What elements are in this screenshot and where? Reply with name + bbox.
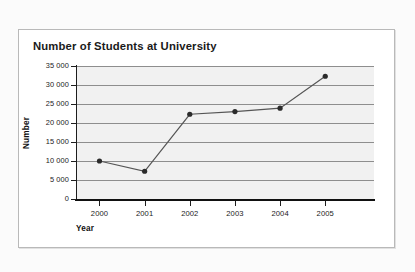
y-axis-label-text: 30 000 <box>46 80 69 89</box>
x-axis-tick <box>145 201 146 206</box>
y-axis-label: 30 000 <box>19 80 69 90</box>
x-axis-tick <box>280 201 281 206</box>
x-axis-label: 2004 <box>271 209 288 218</box>
y-axis-tick <box>71 199 76 200</box>
y-axis-label-text: 20 000 <box>46 118 69 127</box>
data-point-2002 <box>187 112 192 117</box>
y-axis-label-text: 5 000 <box>50 175 69 184</box>
data-point-2004 <box>277 106 282 111</box>
data-point-2001 <box>142 169 147 174</box>
y-axis-label: 5 000 <box>19 175 69 185</box>
x-axis-tick <box>325 201 326 206</box>
data-point-2005 <box>323 74 328 79</box>
x-axis-label: 2002 <box>181 209 198 218</box>
series-markers <box>97 74 328 174</box>
x-axis-label: 2003 <box>226 209 243 218</box>
y-axis-label: 35 000 <box>19 61 69 71</box>
x-axis-label: 2000 <box>91 209 108 218</box>
figure-panel: Number of Students at University 05 0001… <box>18 29 395 248</box>
y-axis-label-text: 10 000 <box>46 156 69 165</box>
y-axis-label-text: 0 <box>65 194 69 203</box>
y-axis-title: Number <box>22 117 31 149</box>
y-axis-label: 25 000 <box>19 99 69 109</box>
x-axis-title: Year <box>76 224 94 233</box>
x-axis-tick <box>99 201 100 206</box>
y-axis-label-text: 35 000 <box>46 61 69 70</box>
x-axis-label: 2001 <box>136 209 153 218</box>
data-series-line <box>76 66 374 199</box>
x-axis-line <box>75 199 375 201</box>
y-axis-label-text: 15 000 <box>46 137 69 146</box>
x-axis-label: 2005 <box>317 209 334 218</box>
y-axis-label: 0 <box>19 194 69 204</box>
x-axis-tick <box>235 201 236 206</box>
x-axis-tick <box>190 201 191 206</box>
y-axis-label: 10 000 <box>19 156 69 166</box>
series-polyline <box>99 76 325 171</box>
plot-wrap: 05 00010 00015 00020 00025 00030 00035 0… <box>19 30 396 249</box>
data-point-2003 <box>232 109 237 114</box>
y-axis-label-text: 25 000 <box>46 99 69 108</box>
data-point-2000 <box>97 158 102 163</box>
